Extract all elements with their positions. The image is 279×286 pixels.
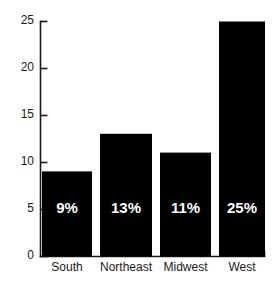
- chart-canvas: 0 5 10 15 20 25 9% 13% 11% 25% South Nor…: [0, 0, 279, 286]
- x-category-label-south: South: [51, 260, 82, 274]
- bar-west: [219, 22, 265, 257]
- y-tick-label-0: 0: [27, 248, 34, 262]
- bar-label-northeast: 13%: [111, 199, 141, 216]
- x-category-label-midwest: Midwest: [163, 260, 208, 274]
- y-tick-label-15: 15: [21, 107, 35, 121]
- bar-chart: 0 5 10 15 20 25 9% 13% 11% 25% South Nor…: [0, 0, 279, 286]
- x-category-label-northeast: Northeast: [100, 260, 153, 274]
- bar-label-midwest: 11%: [171, 199, 200, 216]
- bar-label-south: 9%: [56, 199, 78, 216]
- bar-label-west: 25%: [227, 199, 257, 216]
- y-tick-label-25: 25: [21, 13, 35, 27]
- bar-northeast: [100, 134, 152, 257]
- x-category-label-west: West: [228, 260, 256, 274]
- y-tick-label-5: 5: [27, 201, 34, 215]
- y-tick-label-20: 20: [21, 60, 35, 74]
- y-tick-label-10: 10: [21, 154, 35, 168]
